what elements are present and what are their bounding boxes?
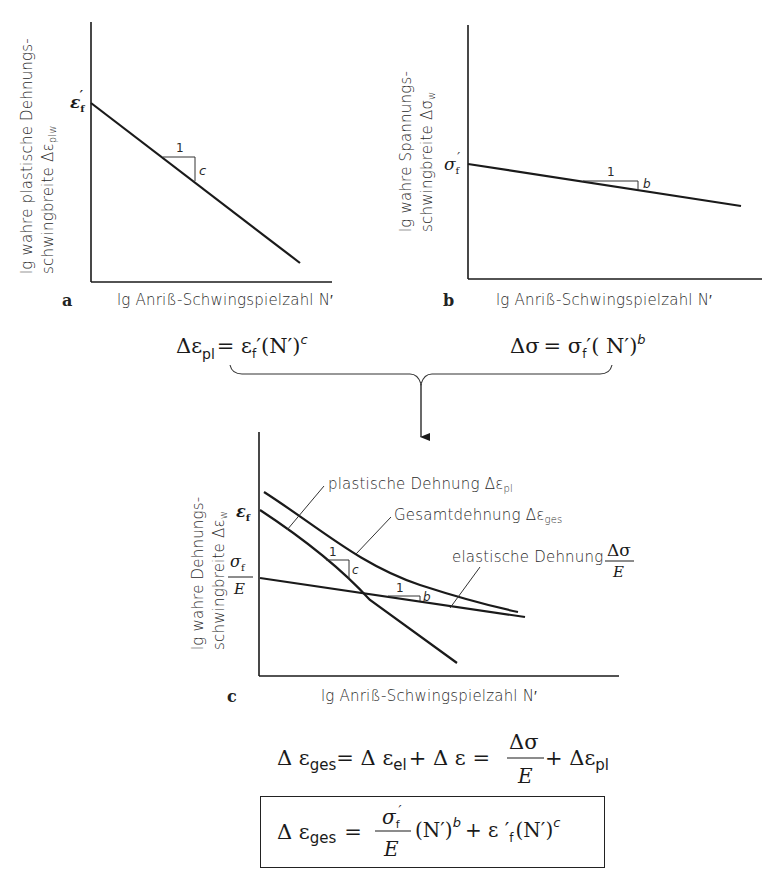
panel-a-plastic-line	[91, 103, 300, 263]
panel-b-slope-run: 1	[607, 165, 615, 179]
leader-plastic	[287, 486, 324, 530]
panel-c-intercept-eps: εf	[236, 502, 251, 523]
panel-c-intercept-sigma: σf	[230, 552, 246, 573]
panel-b-y-label-1: lg wahre Spannungs-	[397, 71, 415, 232]
diagram-canvas: 1 c εf′ lg wahre plastische Dehnungs- sc…	[0, 0, 784, 893]
panel-c: 1 c 1 b plastische Dehnung Δεpl Gesamtde…	[189, 432, 634, 706]
panel-a-y-label-2: schwingbreite Δεplw	[39, 125, 58, 274]
panel-a-x-label: lg Anriß-Schwingspielzahl N′	[117, 291, 333, 309]
label-elastic-numerator: Δσ	[607, 540, 631, 560]
panel-c-letter: c	[227, 687, 237, 706]
panel-a-slope-run: 1	[176, 141, 184, 155]
combining-brace	[230, 365, 612, 384]
panel-b: 1 b σf′ lg wahre Spannungs- schwingbreit…	[397, 25, 762, 310]
panel-b-intercept-label: σf′	[444, 151, 461, 176]
equation-sum-frac-num: Δσ	[509, 730, 539, 754]
label-plastic: plastische Dehnung Δεpl	[328, 475, 513, 494]
top-equations: Δεpl= εf′(N′)c Δσ= σf′( N′)b	[176, 332, 646, 437]
panel-b-x-label: lg Anriß-Schwingspielzahl N′	[496, 291, 712, 309]
panel-b-slope-rise: b	[643, 177, 651, 191]
boxed-equation-frame	[260, 796, 605, 868]
leader-total	[356, 517, 391, 554]
equation-elastic: Δσ= σf′( N′)b	[510, 332, 646, 361]
equation-sum-frac-den: E	[517, 764, 533, 788]
panel-c-intercept-E: E	[233, 580, 245, 598]
label-total: Gesamtdehnung Δεges	[394, 506, 562, 525]
panel-a-y-label-1: lg wahre plastische Dehnungs-	[18, 38, 36, 274]
label-elastic-denominator: E	[612, 563, 624, 581]
panel-c-slope-b-rise: b	[423, 590, 431, 604]
panel-c-x-label: lg Anriß-Schwingspielzahl N′	[321, 687, 537, 705]
panel-b-letter: b	[443, 291, 454, 310]
panel-c-elastic-line	[260, 578, 525, 617]
equation-sum-text: Δ εges= Δ εel+ Δ ε =	[277, 746, 490, 774]
panel-c-slope-c-run: 1	[329, 545, 337, 559]
panel-c-y-label-2: schwingbreite Δεw	[210, 511, 229, 650]
panel-c-y-label-1: lg wahre Dehnungs-	[189, 497, 207, 650]
panel-a-slope-rise: c	[199, 163, 206, 178]
panel-b-elastic-line	[468, 164, 741, 206]
panel-a-letter: a	[62, 291, 72, 310]
sum-equation: Δ εges= Δ εel+ Δ ε = Δσ E + Δεpl	[277, 730, 609, 788]
equation-plastic: Δεpl= εf′(N′)c	[176, 332, 308, 362]
equation-sum-tail: + Δεpl	[545, 746, 609, 774]
panel-c-slope-b-run: 1	[396, 581, 404, 595]
panel-c-slope-c-rise: c	[352, 563, 359, 577]
panel-a: 1 c εf′ lg wahre plastische Dehnungs- sc…	[18, 22, 333, 310]
panel-b-y-label-2: schwingbreite Δσw	[418, 91, 437, 232]
label-elastic: elastische Dehnung	[452, 548, 603, 566]
panel-a-intercept-label: εf′	[70, 89, 85, 114]
